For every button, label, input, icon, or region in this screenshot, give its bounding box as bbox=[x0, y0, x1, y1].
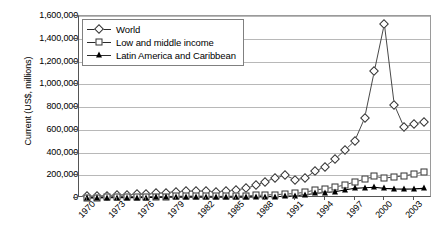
data-point-marker bbox=[282, 193, 288, 199]
legend-item: Latin America and Caribbean bbox=[87, 49, 236, 62]
x-tick-mark bbox=[205, 197, 206, 200]
x-tick-label: 1979 bbox=[159, 199, 186, 226]
x-tick-mark bbox=[235, 197, 236, 200]
legend-label: World bbox=[116, 24, 140, 35]
y-tick-label: 1,000,000 bbox=[8, 78, 78, 88]
x-tick-label: 1985 bbox=[219, 199, 246, 226]
data-point-marker bbox=[391, 185, 397, 191]
y-tick-label: 1,200,000 bbox=[8, 56, 78, 66]
data-point-marker bbox=[342, 186, 348, 192]
y-axis-ticks: 0200,000400,000600,000800,0001,000,0001,… bbox=[0, 0, 78, 197]
data-point-marker bbox=[421, 185, 427, 191]
x-tick-label: 1973 bbox=[100, 199, 127, 226]
y-tick-label: 200,000 bbox=[8, 169, 78, 179]
chart-legend: WorldLow and middle incomeLatin America … bbox=[82, 19, 244, 66]
data-point-marker bbox=[332, 188, 338, 194]
x-tick-mark bbox=[264, 197, 265, 200]
data-point-marker bbox=[411, 185, 417, 191]
y-tick-label: 800,000 bbox=[8, 101, 78, 111]
data-point-marker bbox=[302, 191, 308, 197]
legend-swatch bbox=[87, 37, 111, 48]
data-point-marker bbox=[421, 168, 428, 175]
x-tick-label: 1991 bbox=[278, 199, 305, 226]
data-point-marker bbox=[371, 173, 378, 180]
data-point-marker bbox=[391, 173, 398, 180]
data-point-marker bbox=[292, 192, 298, 198]
legend-marker-icon bbox=[94, 24, 104, 34]
y-tick-label: 1,600,000 bbox=[8, 10, 78, 20]
data-point-marker bbox=[361, 176, 368, 183]
data-point-marker bbox=[322, 189, 328, 195]
x-tick-mark bbox=[86, 197, 87, 200]
x-tick-label: 1976 bbox=[130, 199, 157, 226]
x-tick-label: 2003 bbox=[397, 199, 424, 226]
x-tick-label: 2000 bbox=[368, 199, 395, 226]
y-tick-mark bbox=[73, 197, 78, 198]
legend-swatch bbox=[87, 50, 111, 61]
data-point-marker bbox=[381, 185, 387, 191]
y-tick-label: 400,000 bbox=[8, 147, 78, 157]
data-point-marker bbox=[411, 171, 418, 178]
x-tick-mark bbox=[413, 197, 414, 200]
x-tick-mark bbox=[354, 197, 355, 200]
data-point-marker bbox=[381, 175, 388, 182]
x-axis-labels: 1970197319761979198219851988199119941997… bbox=[78, 199, 431, 249]
y-tick-label: 0 bbox=[8, 192, 78, 202]
x-tick-mark bbox=[383, 197, 384, 200]
legend-marker-icon bbox=[96, 39, 103, 46]
x-tick-mark bbox=[116, 197, 117, 200]
legend-marker-icon bbox=[96, 51, 102, 57]
y-tick-label: 1,400,000 bbox=[8, 33, 78, 43]
legend-item: Low and middle income bbox=[87, 36, 236, 49]
data-point-marker bbox=[352, 185, 358, 191]
legend-label: Latin America and Caribbean bbox=[116, 50, 236, 61]
legend-swatch bbox=[87, 24, 111, 35]
x-tick-label: 1997 bbox=[338, 199, 365, 226]
data-point-marker bbox=[312, 190, 318, 196]
legend-item: World bbox=[87, 23, 236, 36]
x-tick-label: 1994 bbox=[308, 199, 335, 226]
chart-container: Current (US$, millions) 0200,000400,0006… bbox=[0, 0, 439, 249]
data-point-marker bbox=[401, 186, 407, 192]
data-point-marker bbox=[362, 184, 368, 190]
y-tick-label: 600,000 bbox=[8, 124, 78, 134]
data-point-marker bbox=[371, 184, 377, 190]
x-tick-label: 1970 bbox=[70, 199, 97, 226]
x-tick-mark bbox=[175, 197, 176, 200]
x-tick-mark bbox=[324, 197, 325, 200]
data-point-marker bbox=[401, 172, 408, 179]
x-tick-label: 1988 bbox=[249, 199, 276, 226]
x-tick-mark bbox=[145, 197, 146, 200]
x-tick-mark bbox=[294, 197, 295, 200]
x-tick-label: 1982 bbox=[189, 199, 216, 226]
legend-label: Low and middle income bbox=[116, 37, 214, 48]
